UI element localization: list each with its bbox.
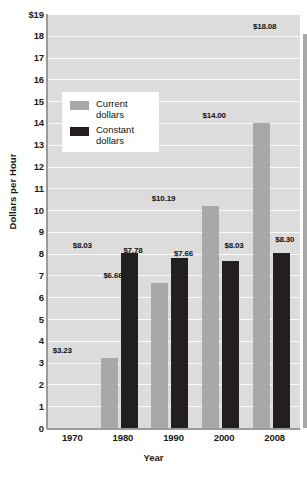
bar-value-label: $18.08 <box>245 23 285 31</box>
bar-constant-1990 <box>222 261 239 428</box>
y-axis-tick-label: 7 <box>0 271 44 281</box>
y-axis-tick-label: 6 <box>0 293 44 303</box>
y-axis-tick-label: 16 <box>0 75 44 85</box>
bar-value-label: $10.19 <box>144 195 184 203</box>
y-axis-tick-label: 0 <box>0 424 44 434</box>
bar-value-label: $6.66 <box>93 272 133 280</box>
y-axis-tick-label: 3 <box>0 358 44 368</box>
gridline <box>47 14 300 15</box>
bar-current-1970 <box>101 358 118 428</box>
bar-value-label: $7.66 <box>164 250 204 258</box>
chart-legend: Currentdollars Constantdollars <box>62 92 159 152</box>
y-axis-tick-label: 4 <box>0 336 44 346</box>
x-axis-title: Year <box>0 452 307 463</box>
bar-value-label: $8.30 <box>265 236 305 244</box>
bar-current-1990 <box>202 206 219 428</box>
x-axis-line <box>47 428 300 430</box>
y-axis-tick-label: 15 <box>0 97 44 107</box>
gridline <box>47 36 300 37</box>
x-axis-tick-label: 1990 <box>152 432 196 443</box>
y-axis-tick-label: 10 <box>0 206 44 216</box>
y-axis-tick-label: 5 <box>0 315 44 325</box>
legend-label-current: Currentdollars <box>96 99 128 120</box>
legend-swatch-constant-icon <box>70 127 89 136</box>
y-axis-tick-label: 8 <box>0 249 44 259</box>
bar-current-2008 <box>303 34 307 428</box>
x-axis-tick-label: 2000 <box>202 432 246 443</box>
legend-label-constant: Constantdollars <box>96 125 134 146</box>
bar-constant-2000 <box>273 253 290 428</box>
y-axis-tick-label: 13 <box>0 140 44 150</box>
x-axis-tick-label: 1980 <box>101 432 145 443</box>
bar-current-2000 <box>253 123 270 428</box>
y-axis-line <box>46 14 48 429</box>
y-axis-tick-label: $19 <box>0 10 44 20</box>
legend-item-constant-dollars: Constantdollars <box>70 125 159 146</box>
x-axis-tick-label: 1970 <box>50 432 94 443</box>
plot-area <box>47 14 300 428</box>
y-axis-tick-label: 14 <box>0 118 44 128</box>
gridline <box>47 79 300 80</box>
bar-value-label: $3.23 <box>42 347 82 355</box>
bar-value-label: $8.03 <box>62 242 102 250</box>
legend-swatch-current-icon <box>70 101 89 110</box>
bar-current-1980 <box>151 283 168 428</box>
bar-constant-1980 <box>171 258 188 428</box>
bar-value-label: $8.03 <box>214 242 254 250</box>
x-axis-tick-label: 2008 <box>253 432 297 443</box>
y-axis-tick-label: 18 <box>0 31 44 41</box>
bar-chart: Dollars per Hour Year Currentdollars Con… <box>0 0 307 488</box>
y-axis-tick-label: 9 <box>0 227 44 237</box>
y-axis-tick-label: 2 <box>0 380 44 390</box>
bar-value-label: $7.78 <box>113 247 153 255</box>
y-axis-tick-label: 12 <box>0 162 44 172</box>
y-axis-tick-label: 1 <box>0 402 44 412</box>
legend-item-current-dollars: Currentdollars <box>70 99 159 120</box>
y-axis-tick-label: 17 <box>0 53 44 63</box>
y-axis-tick-label: 11 <box>0 184 44 194</box>
gridline <box>47 58 300 59</box>
bar-value-label: $14.00 <box>194 112 234 120</box>
